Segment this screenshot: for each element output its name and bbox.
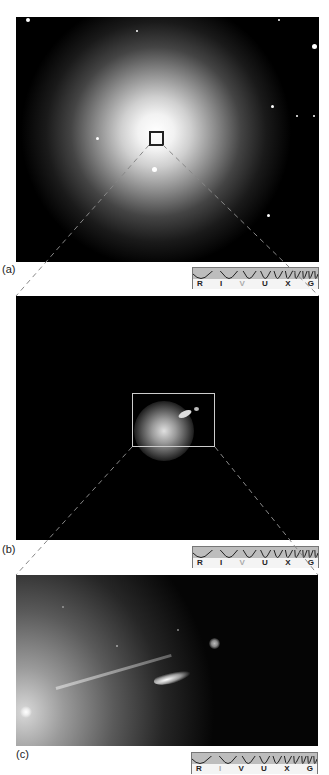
star xyxy=(26,18,30,22)
band-u: U xyxy=(262,558,268,568)
band-r: R xyxy=(197,279,203,289)
zoom-box-b xyxy=(132,393,215,447)
spectrum-bar-b: R I V U X G xyxy=(192,546,319,568)
band-x: X xyxy=(285,558,290,568)
band-r: R xyxy=(196,764,202,774)
panel-c-image xyxy=(16,575,318,746)
galaxy-glow xyxy=(16,17,319,262)
band-u: U xyxy=(262,279,268,289)
band-g: G xyxy=(307,764,313,774)
core-nucleus xyxy=(20,706,32,718)
star xyxy=(271,105,274,108)
spectrum-bar-a: R I V U X G xyxy=(192,267,319,289)
panel-a-image xyxy=(16,17,319,262)
band-r: R xyxy=(197,558,203,568)
star xyxy=(296,115,298,117)
zoom-box-a xyxy=(149,131,164,146)
star xyxy=(313,115,315,117)
band-labels: R I V U X G xyxy=(193,279,318,289)
core-glow xyxy=(16,575,318,746)
band-v: V xyxy=(239,764,244,774)
band-x: X xyxy=(284,764,289,774)
jet-knot-outer xyxy=(209,638,220,649)
band-v: V xyxy=(240,558,245,568)
star xyxy=(96,137,99,140)
band-i: I xyxy=(220,558,222,568)
star xyxy=(312,44,317,49)
band-g: G xyxy=(308,558,314,568)
panel-b-image xyxy=(16,296,319,540)
band-labels: R I V U X G xyxy=(192,764,317,774)
star xyxy=(177,629,179,631)
star xyxy=(152,167,157,172)
star xyxy=(136,30,138,32)
panel-c-label: (c) xyxy=(16,748,29,760)
band-g: G xyxy=(308,279,314,289)
band-x: X xyxy=(285,279,290,289)
star xyxy=(267,214,270,217)
star xyxy=(278,19,280,21)
band-v: V xyxy=(240,279,245,289)
panel-b-label: (b) xyxy=(2,543,15,555)
band-u: U xyxy=(261,764,267,774)
spectrum-bar-c: R I V U X G xyxy=(191,752,318,774)
band-i: I xyxy=(220,279,222,289)
band-i: I xyxy=(219,764,221,774)
panel-a-label: (a) xyxy=(2,263,15,275)
band-labels: R I V U X G xyxy=(193,558,318,568)
star xyxy=(62,606,64,608)
star xyxy=(116,645,118,647)
